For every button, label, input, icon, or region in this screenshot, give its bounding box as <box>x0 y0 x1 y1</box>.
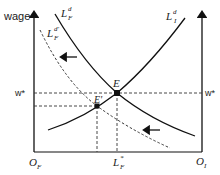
point-e-label: E <box>112 77 120 89</box>
svg-text:L: L <box>112 156 119 168</box>
svg-text:I: I <box>173 17 177 25</box>
svg-text:F: F <box>36 163 42 171</box>
svg-text:d': d' <box>54 25 60 33</box>
svg-text:F: F <box>53 34 59 42</box>
svg-text:I: I <box>203 162 207 170</box>
svg-text:F: F <box>119 163 125 171</box>
svg-text:O: O <box>196 155 204 167</box>
svg-text:L: L <box>46 27 53 39</box>
labor-market-diagram: wage w* w* E E' L d F L d I L d' F L * F… <box>0 0 220 175</box>
point-e-prime-label: E' <box>93 94 103 105</box>
formal-labor-demand-label: L d F <box>60 5 73 22</box>
svg-text:F: F <box>67 14 73 22</box>
svg-text:*: * <box>120 154 124 162</box>
equilibrium-point-e <box>114 90 120 96</box>
svg-text:d: d <box>173 8 177 16</box>
shifted-formal-labor-demand-label: L d' F <box>46 25 60 42</box>
svg-text:O: O <box>29 156 37 168</box>
formal-origin-label: O F <box>29 156 42 171</box>
svg-text:d: d <box>68 5 72 13</box>
y-axis-label: wage <box>3 10 30 22</box>
w-star-label-left: w* <box>14 88 25 98</box>
svg-text:L: L <box>60 7 67 19</box>
informal-labor-demand-label: L d I <box>165 8 177 25</box>
informal-origin-label: O I <box>196 155 207 170</box>
equilibrium-quantity-label: L * F <box>112 154 125 171</box>
w-star-label-right: w* <box>204 88 215 98</box>
svg-text:L: L <box>165 10 172 22</box>
